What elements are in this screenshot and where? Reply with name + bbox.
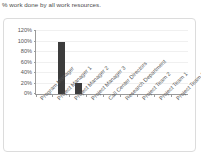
bar[interactable] [58,42,65,95]
y-axis-tick-label: 0% [8,91,32,97]
y-axis-tick-label: 60% [8,60,32,66]
y-axis-tick-label: 80% [8,49,32,55]
y-axis-tick-label: 40% [8,70,32,76]
chart-container: 0%20%40%60%80%100%120% Program ManagerPr… [3,18,196,152]
y-axis-tick-label: 100% [8,39,32,45]
page-title: % work done by all work resources. [2,1,101,8]
y-axis-tick-label: 20% [8,81,32,87]
chart-plot-wrapper: 0%20%40%60%80%100%120% Program ManagerPr… [4,19,197,153]
y-axis-tick-label: 120% [8,28,32,34]
x-axis-tick-labels: Program ManagerProject Manager 1Project … [35,97,187,153]
y-axis-tick-labels: 0%20%40%60%80%100%120% [6,19,32,153]
